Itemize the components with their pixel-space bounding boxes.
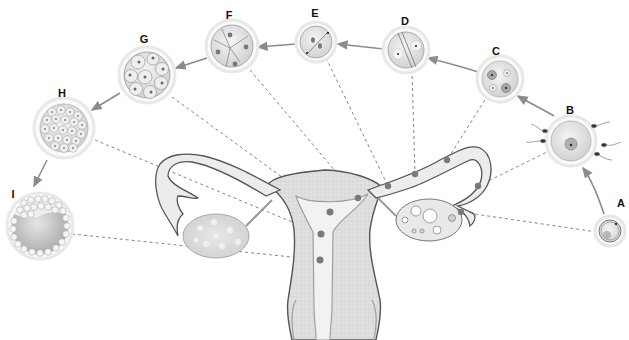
diagram: A B C D E F G H I bbox=[0, 0, 629, 340]
arrow-c-to-d bbox=[428, 58, 478, 72]
label-b: B bbox=[566, 105, 574, 116]
arrow-d-to-e bbox=[338, 44, 384, 49]
label-g: G bbox=[140, 34, 149, 45]
label-d: D bbox=[401, 16, 409, 27]
label-e: E bbox=[311, 8, 318, 19]
cell-h-morula bbox=[34, 98, 94, 158]
label-i: I bbox=[11, 189, 14, 200]
arrow-h-to-i bbox=[34, 160, 47, 186]
leader-a bbox=[461, 212, 597, 232]
dot-b bbox=[475, 183, 481, 189]
right-ovarian-ligament bbox=[378, 198, 396, 216]
cell-e-two-cell bbox=[296, 22, 336, 62]
label-c: C bbox=[492, 46, 500, 57]
arrow-g-to-h bbox=[92, 93, 120, 110]
arrow-b-to-c bbox=[518, 96, 554, 116]
dot-c bbox=[444, 157, 450, 163]
cell-b-fertilization bbox=[526, 116, 621, 166]
arrow-a-to-b bbox=[583, 168, 604, 214]
dot-f bbox=[355, 195, 361, 201]
cell-f-four-cell bbox=[206, 20, 258, 72]
reproductive-tract bbox=[156, 147, 491, 340]
arrow-e-to-f bbox=[258, 44, 296, 47]
label-a: A bbox=[617, 198, 625, 209]
dot-d bbox=[412, 171, 418, 177]
leader-e bbox=[326, 58, 388, 186]
dot-i bbox=[317, 257, 324, 264]
dot-h bbox=[318, 231, 325, 238]
dot-g bbox=[327, 209, 334, 216]
left-ovarian-ligament bbox=[246, 200, 272, 226]
leader-d bbox=[412, 70, 415, 174]
diagram-canvas bbox=[0, 0, 629, 340]
cell-i-blastocyst bbox=[7, 193, 73, 259]
dot-e bbox=[385, 183, 391, 189]
label-h: H bbox=[58, 88, 66, 99]
arrow-f-to-g bbox=[176, 58, 207, 68]
cell-d-spindle bbox=[383, 27, 429, 73]
label-f: F bbox=[226, 10, 233, 21]
dot-a bbox=[458, 209, 464, 215]
cell-c-zygote bbox=[477, 56, 523, 102]
cell-g-eight-cell bbox=[119, 47, 175, 103]
cell-a-oocyte bbox=[595, 216, 625, 246]
